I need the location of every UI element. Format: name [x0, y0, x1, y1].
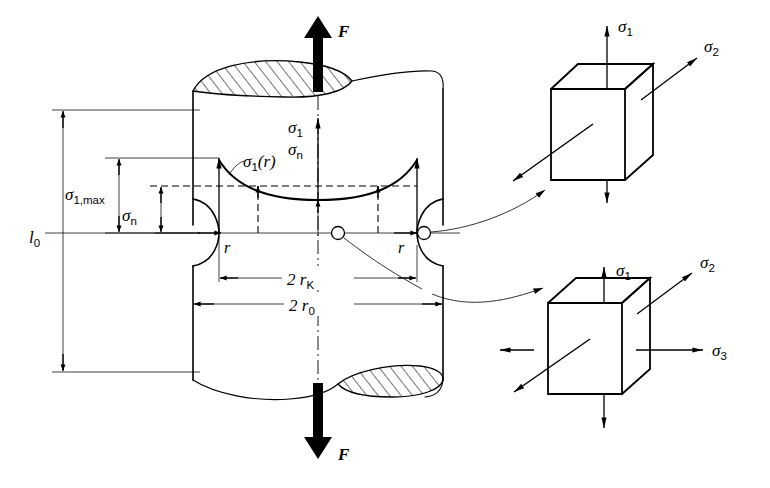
force-label-top: F: [337, 22, 350, 41]
core-point-marker: [332, 227, 345, 240]
cube-surface-element: [513, 26, 697, 203]
sigma-1-r-label: σ1(r): [243, 152, 276, 173]
sigma2-out-arrow: [637, 273, 692, 314]
sigma1max-label: σ1,max: [65, 185, 105, 206]
cube-core-sigma2-label: σ2: [700, 253, 715, 274]
cube-core-element: [500, 267, 703, 428]
leader-surface-to-cube: [431, 190, 545, 232]
leader-core-to-cube: [432, 288, 543, 302]
gauge-length-label: l0: [29, 228, 40, 249]
surface-point-marker: [418, 227, 431, 240]
dim-gauge-length: [52, 110, 200, 372]
dim-shaft-diameter: [194, 292, 442, 316]
notched-specimen-diagram: F F σ1 σn σ1(r) r r: [0, 0, 770, 488]
sigma2-in-arrow: [514, 339, 590, 392]
cube-surface-sigma1-label: σ1: [618, 17, 633, 38]
sigma1r-leader: [229, 161, 244, 175]
notch-radius-label-right: r: [398, 239, 405, 256]
leader-core-seg1: [344, 238, 422, 289]
cube-core-sigma1-label: σ1: [616, 261, 631, 282]
sigma-1-axis-label: σ1: [288, 118, 303, 139]
notch-radius-label-left: r: [224, 239, 231, 256]
cube-core-sigma3-label: σ3: [712, 341, 727, 362]
sigma-n-axis-label: σn: [288, 140, 303, 161]
figure-root: F F σ1 σn σ1(r) r r: [0, 0, 770, 488]
top-fracture-surface: [193, 61, 352, 97]
force-arrow-bottom: [304, 383, 332, 459]
force-label-bottom: F: [337, 445, 350, 464]
specimen-group: [193, 48, 443, 440]
sigman-label: σn: [122, 206, 137, 227]
bottom-fracture-surface: [338, 365, 443, 397]
cube-surface-sigma2-label: σ2: [704, 37, 719, 58]
sigma2-in-arrow: [513, 124, 593, 181]
